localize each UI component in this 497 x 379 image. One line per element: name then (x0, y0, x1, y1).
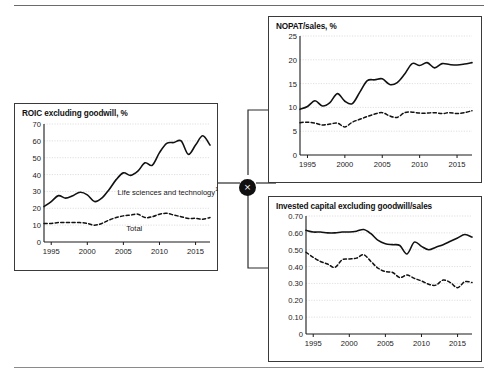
y-axis-tick-nopat: 10 (289, 103, 297, 112)
x-axis-tick-roic: 1995 (43, 247, 60, 256)
x-axis-tick-nopat: 2010 (411, 160, 428, 169)
footnote-marker: 1 (215, 186, 218, 192)
y-axis-tick-nopat: 0 (293, 151, 297, 160)
x-axis-tick-roic: 2010 (151, 247, 168, 256)
x-axis-tick-roic: 2005 (115, 247, 132, 256)
connector-bracket (216, 96, 276, 296)
x-axis-tick-ic: 2010 (413, 339, 430, 348)
y-axis-tick-ic: 0.10 (288, 313, 303, 322)
chart-panel-invested-capital: Invested capital excluding goodwill/sale… (268, 196, 482, 362)
x-axis-tick-nopat: 2000 (336, 160, 353, 169)
y-axis-tick-ic: 0.20 (288, 296, 303, 305)
series-annotation-text: Total (126, 224, 142, 233)
x-axis-tick-nopat: 2015 (449, 160, 466, 169)
y-axis-tick-ic: 0 (299, 330, 303, 339)
x-axis-tick-ic: 2015 (449, 339, 466, 348)
y-axis-tick-roic: 70 (33, 120, 41, 129)
y-axis-tick-nopat: 15 (289, 79, 297, 88)
y-axis-tick-nopat: 20 (289, 55, 297, 64)
x-axis-tick-ic: 2000 (341, 339, 358, 348)
series-line-total (300, 111, 472, 127)
multiply-operator-icon: × (239, 179, 256, 196)
chart-title-nopat: NOPAT/sales, % (276, 22, 337, 31)
chart-panel-roic: ROIC excluding goodwill, % 0102030405060… (14, 103, 218, 271)
series-annotation-total: Total (126, 224, 142, 233)
y-axis-tick-ic: 0.40 (288, 262, 303, 271)
y-axis-tick-roic: 0 (37, 238, 41, 247)
plot-area-nopat (300, 36, 472, 155)
x-axis-tick-roic: 2015 (187, 247, 204, 256)
y-axis-tick-ic: 0.50 (288, 245, 303, 254)
series-annotation-text: Life sciences and technology (118, 187, 216, 196)
y-axis-tick-roic: 40 (33, 170, 41, 179)
y-axis-tick-nopat: 5 (293, 127, 297, 136)
page-rule-bottom (14, 367, 484, 368)
series-line-total (306, 252, 472, 287)
page-rule-top (14, 5, 484, 6)
chart-title-invested-capital: Invested capital excluding goodwill/sale… (276, 202, 432, 211)
series-annotation-life-sciences: Life sciences and technology1 (118, 186, 219, 197)
x-axis-tick-nopat: 2005 (374, 160, 391, 169)
x-axis-tick-ic: 2005 (377, 339, 394, 348)
y-axis-tick-roic: 30 (33, 187, 41, 196)
figure-root: × ROIC excluding goodwill, % 01020304050… (0, 0, 497, 379)
x-axis-tick-nopat: 1995 (299, 160, 316, 169)
x-axis-tick-ic: 1995 (305, 339, 322, 348)
y-axis-tick-ic: 0.70 (288, 212, 303, 221)
y-axis-tick-roic: 20 (33, 204, 41, 213)
y-axis-tick-ic: 0.30 (288, 279, 303, 288)
y-axis-tick-roic: 60 (33, 136, 41, 145)
plot-area-invested-capital (306, 216, 472, 334)
x-axis-tick-roic: 2000 (79, 247, 96, 256)
y-axis-tick-roic: 10 (33, 221, 41, 230)
y-axis-tick-ic: 0.60 (288, 228, 303, 237)
chart-title-roic: ROIC excluding goodwill, % (22, 109, 128, 118)
chart-panel-nopat: NOPAT/sales, % 0510152025199520002005201… (268, 16, 482, 183)
y-axis-tick-roic: 50 (33, 153, 41, 162)
series-line-life-sciences (300, 63, 472, 110)
y-axis-tick-nopat: 25 (289, 32, 297, 41)
